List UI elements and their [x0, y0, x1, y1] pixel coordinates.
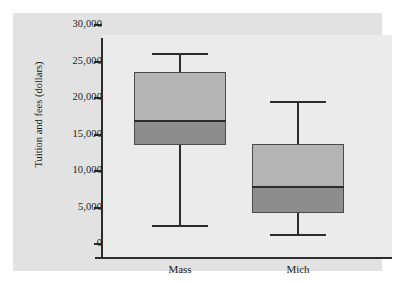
y-tick-label: 0 [50, 238, 102, 249]
y-axis-line [101, 38, 103, 258]
lower-whisker-stem [179, 145, 181, 225]
upper-whisker-cap [270, 101, 326, 103]
y-tick-label-row: 25,000 [35, 56, 102, 68]
y-tick-label: 30,000 [50, 19, 102, 30]
upper-whisker-cap [152, 53, 208, 55]
lower-whisker-cap [152, 225, 208, 227]
box-upper-quartile [134, 72, 226, 121]
y-tick-label-row: 30,000 [35, 19, 102, 31]
upper-whisker-stem [297, 102, 299, 144]
y-tick-label: 20,000 [50, 92, 102, 103]
x-tick-label-mass: Mass [140, 263, 220, 275]
box-plot-figure: 30,00025,00020,00015,00010,0005,0000 Tui… [0, 0, 402, 283]
box-upper-quartile [252, 144, 344, 187]
y-tick-label: 15,000 [50, 129, 102, 140]
x-axis-line [95, 257, 392, 259]
x-tick-label-mich: Mich [258, 263, 338, 275]
upper-whisker-stem [179, 54, 181, 72]
box-lower-quartile [252, 187, 344, 213]
plot-area [102, 35, 392, 257]
y-tick-label: 5,000 [50, 202, 102, 213]
y-tick-label-row: 20,000 [35, 92, 102, 104]
y-tick-label: 25,000 [50, 56, 102, 67]
y-tick-label: 10,000 [50, 165, 102, 176]
lower-whisker-cap [270, 234, 326, 236]
median-line [252, 186, 344, 188]
lower-whisker-stem [297, 213, 299, 235]
y-tick-label-row: 5,000 [35, 202, 102, 214]
median-line [134, 120, 226, 122]
y-tick-label-row: 0 [35, 238, 102, 250]
y-tick-label-row: 10,000 [35, 165, 102, 177]
y-tick-label-row: 15,000 [35, 129, 102, 141]
box-lower-quartile [134, 121, 226, 145]
figure-panel: 30,00025,00020,00015,00010,0005,0000 Tui… [13, 13, 382, 271]
